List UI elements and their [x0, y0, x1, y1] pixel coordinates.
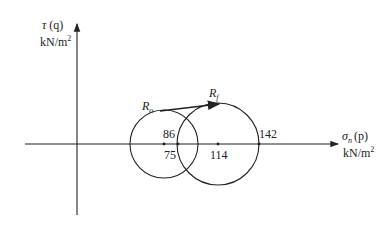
- large-center-dot: [217, 143, 220, 146]
- svg-text:Ro: Ro: [141, 99, 153, 115]
- svg-text:Rf: Rf: [208, 86, 220, 102]
- value-114: 114: [210, 148, 228, 162]
- x-unit: kN/m: [343, 146, 371, 160]
- svg-text:kN/m2: kN/m2: [343, 145, 374, 160]
- svg-text:σn(p): σn(p): [342, 129, 368, 145]
- value-75: 75: [164, 148, 176, 162]
- small-center-dot: [163, 143, 166, 146]
- tau-symbol: τ: [42, 18, 47, 32]
- intersect-dot: [177, 143, 180, 146]
- value-86: 86: [163, 127, 175, 141]
- mohr-circle-diagram: τ(q) kN/m2 σn(p) kN/m2 Ro Rf 86 75 114 1…: [0, 0, 389, 226]
- q-label: (q): [49, 18, 63, 32]
- svg-text:kN/m2: kN/m2: [40, 34, 71, 49]
- value-142: 142: [259, 127, 277, 141]
- p-label: (p): [354, 129, 368, 143]
- y-unit: kN/m: [40, 35, 68, 49]
- svg-text:τ(q): τ(q): [42, 18, 63, 32]
- right-dot: [258, 143, 261, 146]
- stress-path-arrow: [160, 104, 219, 111]
